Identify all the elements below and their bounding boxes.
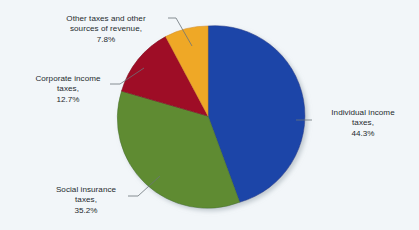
pie-label-social-insurance-taxes: Social insurance taxes, 35.2% bbox=[26, 185, 146, 216]
pie-label-other-taxes: Other taxes and other sources of revenue… bbox=[36, 14, 176, 45]
pie-label-corporate-income-taxes: Corporate income taxes, 12.7% bbox=[8, 74, 128, 105]
pie-label-individual-income-taxes: Individual income taxes, 44.3% bbox=[311, 108, 415, 139]
pie-slices-group bbox=[117, 26, 305, 209]
pie-chart-figure: Other taxes and other sources of revenue… bbox=[0, 0, 419, 230]
